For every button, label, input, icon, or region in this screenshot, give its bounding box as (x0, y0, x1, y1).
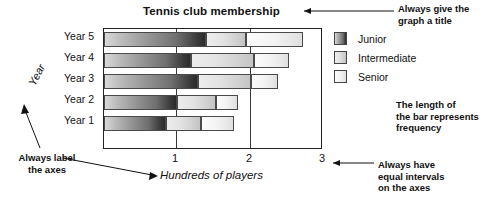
arrow-intervals-note (333, 160, 374, 166)
legend-swatch-senior-icon (334, 70, 347, 83)
annotation-title-note: Always give the graph a title (398, 3, 469, 26)
legend-label-senior: Senior (358, 71, 388, 83)
legend-item-senior: Senior (334, 67, 416, 86)
annotation-intervals-note-line1: Always have (378, 159, 445, 171)
annotation-length-note-line2: the bar represents (396, 111, 479, 123)
annotation-intervals-note: Always have equal intervals on the axes (378, 159, 445, 194)
arrow-title-note (304, 8, 394, 14)
annotation-axes-note-line1: Always label (4, 152, 90, 164)
y-axis-tick-year-5: Year 5 (34, 30, 94, 42)
legend-item-intermediate: Intermediate (334, 48, 416, 67)
annotation-intervals-note-line3: on the axes (378, 182, 445, 194)
bar-segment-junior (104, 32, 206, 47)
annotation-title-note-line2: graph a title (398, 15, 469, 27)
bar-segment-intermediate (198, 74, 251, 89)
arrow-y-axis-label (21, 104, 40, 148)
annotation-title-note-line1: Always give the (398, 3, 469, 15)
bar-segment-intermediate (206, 32, 246, 47)
annotation-axes-note: Always label the axes (4, 152, 90, 175)
annotation-length-note-line3: frequency (396, 122, 479, 134)
y-axis-tick-year-2: Year 2 (34, 93, 94, 105)
legend-swatch-intermediate-icon (334, 51, 347, 64)
x-axis-tick-1: 1 (163, 152, 187, 164)
y-axis-tick-year-1: Year 1 (34, 114, 94, 126)
bar-segment-senior (201, 116, 234, 131)
bar-segment-senior (254, 53, 289, 68)
bar-segment-intermediate (166, 116, 201, 131)
page-title: Tennis club membership (143, 5, 280, 17)
legend-item-junior: Junior (334, 29, 416, 48)
legend-label-intermediate: Intermediate (358, 52, 416, 64)
bar-segment-junior (104, 95, 177, 110)
bar-segment-intermediate (177, 95, 216, 110)
bar-segment-junior (104, 53, 191, 68)
y-axis-tick-year-4: Year 4 (34, 51, 94, 63)
legend-swatch-junior-icon (334, 32, 347, 45)
annotation-axes-note-line2: the axes (4, 164, 90, 176)
bar-segment-junior (104, 74, 198, 89)
annotation-intervals-note-line2: equal intervals (378, 171, 445, 183)
bar-segment-junior (104, 116, 166, 131)
legend-label-junior: Junior (358, 33, 387, 45)
plot-area (103, 28, 322, 149)
bar-segment-senior (216, 95, 238, 110)
bar-segment-senior (251, 74, 278, 89)
x-axis-label: Hundreds of players (160, 169, 263, 181)
bar-segment-senior (246, 32, 303, 47)
x-axis-tick-2: 2 (237, 152, 261, 164)
legend: Junior Intermediate Senior (334, 29, 416, 86)
bar-segment-intermediate (191, 53, 254, 68)
annotation-length-note: The length of the bar represents frequen… (396, 99, 479, 134)
x-axis-tick-3: 3 (310, 152, 334, 164)
annotation-length-note-line1: The length of (396, 99, 479, 111)
